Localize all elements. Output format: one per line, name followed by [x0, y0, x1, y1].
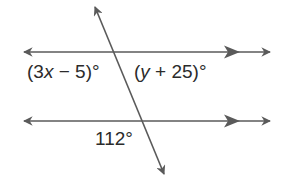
parallel-lines-diagram: [0, 0, 290, 179]
label-part: − 5)°: [53, 61, 99, 82]
angle-label-y-plus-25: (y + 25)°: [134, 62, 207, 81]
variable-y: y: [140, 61, 150, 82]
angle-label-112: 112°: [95, 129, 133, 148]
label-part: + 25)°: [150, 61, 207, 82]
bottom-parallel-line: [24, 115, 270, 128]
angle-label-3x-minus-5: (3x − 5)°: [27, 62, 100, 81]
top-parallel-line: [24, 46, 270, 59]
variable-x: x: [44, 61, 54, 82]
label-part: (3: [27, 61, 44, 82]
